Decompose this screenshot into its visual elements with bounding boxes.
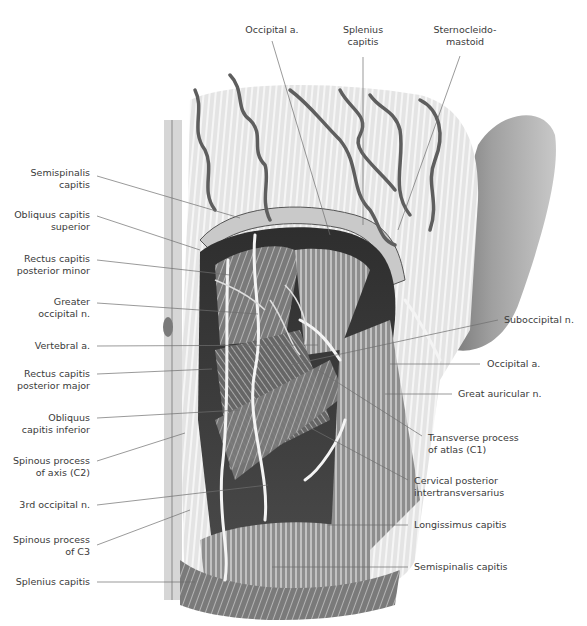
- label-obliquus-capitis-superior: Obliquus capitis superior: [0, 209, 90, 233]
- label-spinous-process-axis: Spinous process of axis (C2): [0, 455, 90, 479]
- label-spinous-process-c3: Spinous process of C3: [0, 534, 90, 558]
- label-third-occipital-n: 3rd occipital n.: [0, 499, 90, 511]
- label-great-auricular-n: Great auricular n.: [458, 388, 542, 400]
- anatomy-figure: Occipital a. Splenius capitis Sternoclei…: [0, 0, 587, 626]
- label-splenius-capitis-left: Splenius capitis: [0, 576, 90, 588]
- label-rectus-capitis-posterior-minor: Rectus capitis posterior minor: [0, 253, 90, 277]
- label-semispinalis-capitis-left: Semispinalis capitis: [0, 167, 90, 191]
- label-occipital-a-top: Occipital a.: [232, 24, 312, 36]
- label-splenius-capitis-top: Splenius capitis: [333, 24, 393, 48]
- label-sternocleidomastoid: Sternocleido- mastoid: [425, 24, 505, 48]
- label-occipital-a-right: Occipital a.: [487, 358, 540, 370]
- label-vertebral-a: Vertebral a.: [0, 340, 90, 352]
- label-suboccipital-n: Suboccipital n.: [504, 314, 574, 326]
- label-cervical-posterior-intertransversarius: Cervical posterior intertransversarius: [414, 475, 504, 499]
- label-obliquus-capitis-inferior: Obliquus capitis inferior: [0, 412, 90, 436]
- label-greater-occipital-n: Greater occipital n.: [0, 296, 90, 320]
- label-longissimus-capitis: Longissimus capitis: [414, 519, 506, 531]
- label-rectus-capitis-posterior-major: Rectus capitis posterior major: [0, 368, 90, 392]
- label-transverse-process-atlas: Transverse process of atlas (C1): [428, 432, 519, 456]
- label-semispinalis-capitis-right: Semispinalis capitis: [414, 561, 508, 573]
